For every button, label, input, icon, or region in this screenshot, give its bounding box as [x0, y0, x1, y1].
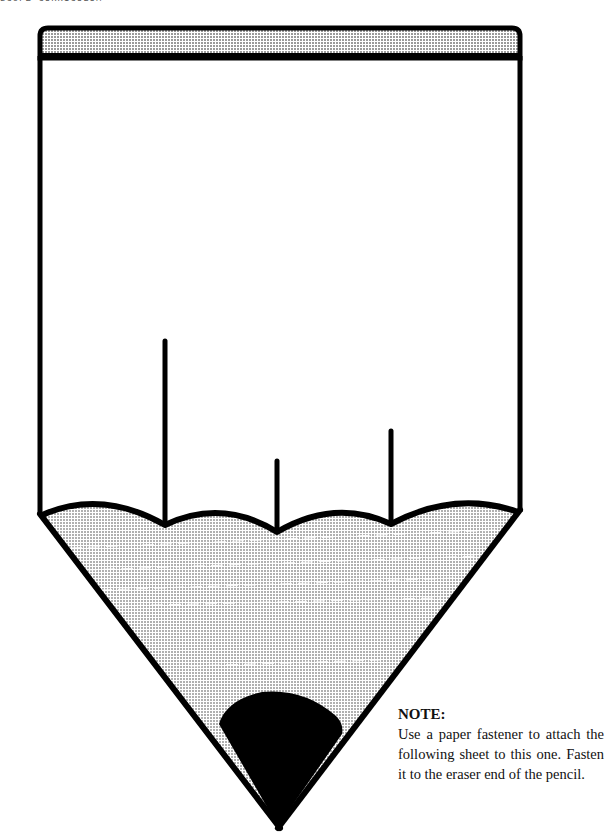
- vertical-lines: [165, 341, 391, 532]
- note-title: NOTE:: [398, 704, 604, 724]
- pencil-body: [40, 56, 520, 514]
- note-block: NOTE: Use a paper fastener to attach the…: [398, 704, 604, 784]
- eraser-band: [40, 28, 520, 58]
- note-body: Use a paper fastener to attach the follo…: [398, 724, 604, 784]
